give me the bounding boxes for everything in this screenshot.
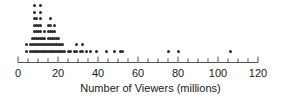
- data-dot: [43, 30, 46, 33]
- data-dot: [85, 50, 88, 53]
- data-dot: [49, 24, 52, 27]
- data-dot: [229, 50, 232, 53]
- x-tick-label: 120: [249, 66, 267, 80]
- data-dot: [75, 50, 78, 53]
- x-tick-label: 20: [52, 66, 64, 80]
- data-dot: [89, 50, 92, 53]
- data-dot: [53, 24, 56, 27]
- data-dot: [39, 11, 42, 14]
- data-dot: [33, 11, 36, 14]
- axis-geometry: [18, 57, 258, 63]
- data-dot: [53, 30, 56, 33]
- data-dot: [35, 17, 38, 20]
- data-dot: [167, 50, 170, 53]
- data-dot: [33, 4, 36, 7]
- dot-stack-layer: [0, 0, 301, 56]
- data-dot: [81, 50, 84, 53]
- data-dot: [25, 43, 28, 46]
- x-tick-label: 80: [172, 66, 184, 80]
- data-dot: [113, 50, 116, 53]
- data-dot: [39, 30, 42, 33]
- data-dot: [75, 43, 78, 46]
- data-dot: [39, 17, 42, 20]
- x-axis-title: Number of Viewers (millions): [0, 81, 301, 95]
- data-dot: [39, 4, 42, 7]
- data-dot: [57, 37, 60, 40]
- x-axis-tick-labels: 020406080100120: [0, 66, 301, 82]
- x-tick-label: 40: [92, 66, 104, 80]
- data-dot: [105, 50, 108, 53]
- data-dot: [25, 50, 28, 53]
- data-dot: [61, 43, 64, 46]
- data-dot: [49, 17, 52, 20]
- data-dot: [81, 43, 84, 46]
- data-dot: [39, 24, 42, 27]
- x-tick-label: 100: [209, 66, 227, 80]
- x-tick-label: 0: [15, 66, 21, 80]
- data-dot: [121, 50, 124, 53]
- data-dot: [43, 37, 46, 40]
- dot-plot-figure: 020406080100120 Number of Viewers (milli…: [0, 0, 301, 98]
- data-dot: [63, 50, 66, 53]
- data-dot: [177, 50, 180, 53]
- data-dot: [69, 50, 72, 53]
- data-dot: [95, 50, 98, 53]
- x-tick-label: 60: [132, 66, 144, 80]
